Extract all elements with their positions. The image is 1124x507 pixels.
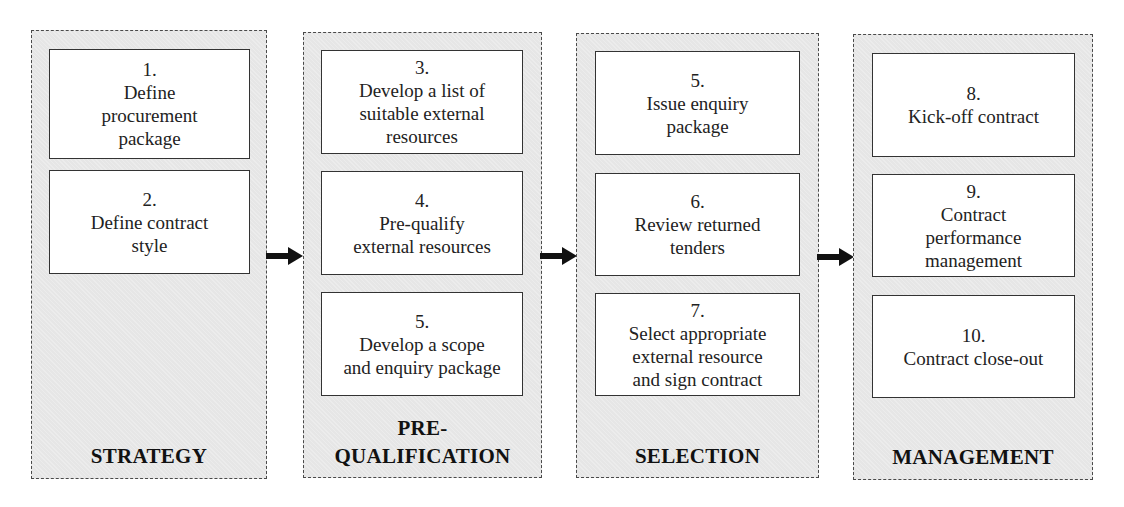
right-arrow-icon (817, 247, 855, 267)
step-3-develop-list-of-external-resources: 3. Develop a list of suitable external r… (321, 50, 523, 154)
step-number: 3. (415, 56, 429, 79)
step-number: 10. (962, 324, 986, 347)
step-text: Define procurement package (101, 81, 197, 150)
step-8-kick-off-contract: 8. Kick-off contract (872, 53, 1075, 157)
stage-label-strategy: STRATEGY (32, 444, 266, 469)
stage-management: 8. Kick-off contract 9. Contract perform… (853, 34, 1093, 480)
step-5-issue-enquiry-package: 5. Issue enquiry package (595, 51, 800, 155)
step-10-contract-close-out: 10. Contract close-out (872, 295, 1075, 398)
step-text: Review returned tenders (634, 213, 760, 259)
step-number: 1. (142, 58, 156, 81)
step-number: 5. (690, 69, 704, 92)
stage-pre-qualification: 3. Develop a list of suitable external r… (303, 32, 542, 478)
step-text: Kick-off contract (908, 105, 1039, 128)
step-text: Define contract style (91, 211, 209, 257)
step-number: 9. (966, 180, 980, 203)
right-arrow-icon (540, 246, 578, 266)
step-number: 4. (415, 189, 429, 212)
step-number: 8. (966, 82, 980, 105)
step-text: Contract close-out (904, 347, 1044, 370)
stage-label-selection: SELECTION (577, 444, 818, 469)
step-number: 6. (690, 190, 704, 213)
step-number: 2. (142, 188, 156, 211)
step-text: Pre-qualify external resources (353, 212, 491, 258)
right-arrow-icon (266, 246, 304, 266)
stage-label-pre-qualification: PRE- QUALIFICATION (304, 414, 541, 470)
stage-label-management: MANAGEMENT (854, 445, 1092, 470)
step-text: Develop a list of suitable external reso… (359, 79, 485, 148)
step-2-define-contract-style: 2. Define contract style (49, 170, 250, 274)
step-text: Select appropriate external resource and… (629, 322, 767, 391)
step-text: Contract performance management (925, 203, 1022, 272)
step-4-pre-qualify-external-resources: 4. Pre-qualify external resources (321, 171, 523, 275)
step-text: Develop a scope and enquiry package (343, 333, 500, 379)
stage-strategy: 1. Define procurement package 2. Define … (31, 30, 267, 479)
step-text: Issue enquiry package (647, 92, 749, 138)
step-1-define-procurement-package: 1. Define procurement package (49, 49, 250, 159)
step-number: 5. (415, 310, 429, 333)
stage-selection: 5. Issue enquiry package 6. Review retur… (576, 33, 819, 478)
step-7-select-resource-and-sign-contract: 7. Select appropriate external resource … (595, 293, 800, 396)
step-9-contract-performance-management: 9. Contract performance management (872, 174, 1075, 277)
step-number: 7. (690, 299, 704, 322)
step-6-review-returned-tenders: 6. Review returned tenders (595, 173, 800, 276)
step-5-develop-scope-and-enquiry-package: 5. Develop a scope and enquiry package (321, 292, 523, 396)
